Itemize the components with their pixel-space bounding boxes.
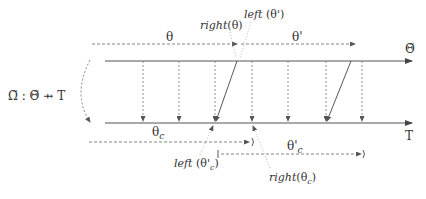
left-theta-c-prime-label: left (θ'c) <box>174 157 219 172</box>
leader-left-theta-c-prime <box>200 126 213 155</box>
mapping-label: Ω̃ : Θ̃ ⇸ T <box>8 89 65 103</box>
mapping-curve-arrow <box>81 60 90 122</box>
theta-label: θ <box>166 30 173 44</box>
top-axis-label: Θ̃ <box>405 42 415 56</box>
theta-prime-label: θ' <box>292 30 303 44</box>
slant-line <box>327 61 351 121</box>
theta-c-label: θc <box>152 125 164 141</box>
theta-c-prime-end <box>363 150 365 158</box>
leader-right-theta <box>230 32 236 58</box>
leader-right-theta-c <box>253 126 270 168</box>
mapping-lines <box>143 61 362 121</box>
theta-c-prime-label: θ'c <box>287 139 303 155</box>
left-theta-prime-label: left (θ') <box>244 8 284 21</box>
right-theta-c-label: right(θc) <box>269 171 316 186</box>
bottom-axis-label: T <box>405 129 413 143</box>
theta-c-interval-end <box>252 138 254 146</box>
right-theta-label: right(θ) <box>200 19 243 32</box>
slant-line <box>216 61 237 121</box>
diagram: Ω̃ : Θ̃ ⇸ T Θ̃ T θ θ' θc θ'c right(θ) le… <box>0 0 426 199</box>
